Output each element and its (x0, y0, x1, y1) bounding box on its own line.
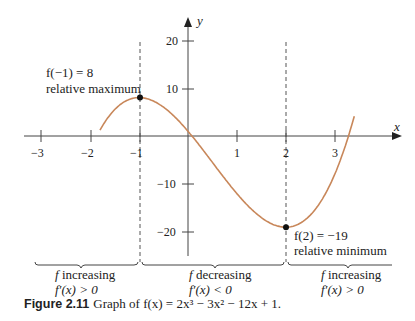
max-value-label: f(−1) = 8 (46, 66, 93, 80)
y-tick-label: 20 (166, 34, 178, 48)
min-value-label: f(2) = −19 (294, 229, 348, 243)
relative-minimum-point (283, 224, 289, 230)
interval-deriv-right: f′(x) > 0 (321, 283, 364, 297)
x-tick-label: −3 (31, 146, 44, 160)
interval-text: decreasing (193, 267, 252, 282)
interval-text: increasing (59, 267, 116, 282)
interval-label-middle: f decreasing (189, 268, 251, 282)
interval-text: increasing (325, 267, 382, 282)
max-note-label: relative maximum (46, 82, 141, 96)
x-tick-label: 2 (283, 146, 289, 160)
y-tick-label: 10 (166, 82, 178, 96)
y-tick-label: −20 (157, 225, 176, 239)
x-tick-label: 3 (332, 146, 338, 160)
y-axis-label: y (197, 14, 203, 28)
x-tick-label: −2 (81, 146, 94, 160)
figure-caption: Figure 2.11Graph of f(x) = 2x³ − 3x² − 1… (24, 296, 281, 312)
function-curve (100, 98, 354, 228)
interval-deriv-left: f′(x) > 0 (55, 283, 98, 297)
figure-caption-text: Graph of f(x) = 2x³ − 3x² − 12x + 1. (93, 296, 281, 311)
y-axis-arrow-icon (184, 17, 192, 27)
interval-label-left: f increasing (55, 268, 115, 282)
min-note-label: relative minimum (294, 244, 387, 258)
y-tick-label: −10 (157, 177, 176, 191)
x-tick-label: −1 (130, 146, 143, 160)
x-axis-label: x (394, 120, 400, 134)
interval-label-right: f increasing (321, 268, 381, 282)
figure-number: Figure 2.11 (24, 297, 89, 311)
interval-deriv-middle: f′(x) < 0 (189, 283, 232, 297)
x-tick-label: 1 (234, 146, 240, 160)
